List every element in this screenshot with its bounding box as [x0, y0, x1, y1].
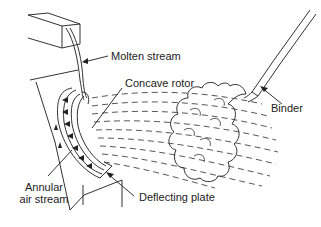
label-concave-rotor: Concave rotor: [125, 77, 194, 89]
label-annular-line1: Annular: [16, 181, 72, 193]
label-annular-line2: air stream: [16, 193, 72, 205]
molten-stream-arrowhead: [82, 58, 88, 64]
binder-nozzle: [244, 10, 316, 102]
label-annular-air-stream: Annular air stream: [16, 181, 72, 205]
deflecting-plate-arrowhead: [106, 172, 114, 178]
label-molten-stream: Molten stream: [111, 50, 181, 62]
label-binder: Binder: [271, 102, 303, 114]
fiberizing-diagram: Molten stream Concave rotor Binder Annul…: [0, 0, 321, 227]
fiber-cloud: [169, 82, 246, 181]
molten-feed-spout: [28, 13, 80, 48]
label-deflecting-plate: Deflecting plate: [139, 191, 215, 203]
air-stream-arrows: [54, 97, 92, 169]
